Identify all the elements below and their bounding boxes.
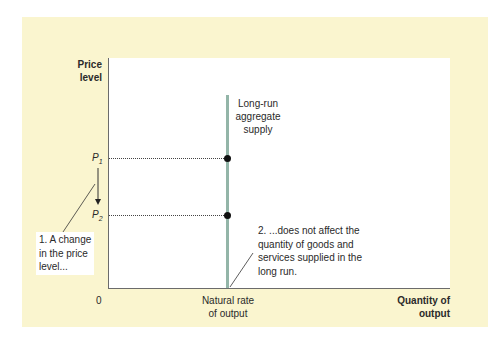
note1-line1: 1. A change (39, 233, 91, 247)
note1-line2: in the price (39, 247, 91, 261)
annotation-no-effect: 2. ...does not affect the quantity of go… (255, 223, 365, 279)
x-axis-label-line1: Quantity of (380, 294, 450, 307)
natural-rate-line2: of output (196, 307, 260, 320)
note1-line3: level... (39, 260, 91, 274)
annotation-price-change: 1. A change in the price level... (36, 232, 94, 275)
note2-line2: quantity of goods and (258, 238, 362, 252)
note2-line4: long run. (258, 265, 362, 279)
x-axis-label: Quantity of output (380, 294, 450, 320)
note2-line3: services supplied in the (258, 251, 362, 265)
arrow-down-icon (95, 199, 101, 205)
note2-line1: 2. ...does not affect the (258, 224, 362, 238)
x-axis-label-line2: output (380, 307, 450, 320)
natural-rate-label: Natural rate of output (196, 294, 260, 320)
natural-rate-line1: Natural rate (196, 294, 260, 307)
origin-label: 0 (96, 294, 102, 307)
